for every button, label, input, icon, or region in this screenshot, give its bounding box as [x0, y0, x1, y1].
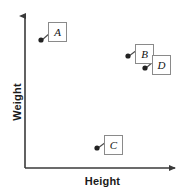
y-axis-title: Weight	[11, 72, 23, 132]
point-label-a: A	[48, 22, 67, 42]
marker-c	[94, 145, 99, 150]
point-label-c: C	[104, 135, 123, 155]
marker-d	[142, 65, 147, 70]
point-label-d: D	[152, 55, 171, 75]
marker-b	[125, 53, 130, 58]
scatter-plot-figure: A B D C Weight Height	[0, 0, 184, 193]
x-axis-title: Height	[25, 175, 180, 187]
plot-canvas	[0, 0, 184, 193]
marker-a	[38, 37, 43, 42]
